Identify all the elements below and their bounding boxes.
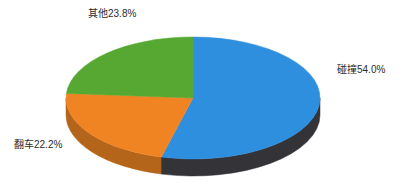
pie-slice-other[interactable] (66, 37, 193, 98)
pie-label-rollover: 翻车22.2% (14, 139, 62, 151)
pie-label-other: 其他23.8% (88, 8, 136, 20)
pie-chart-svg (0, 0, 403, 191)
pie-top-face (66, 37, 320, 159)
pie-label-collision: 碰撞54.0% (337, 64, 385, 76)
pie-chart-figure: 其他23.8% 碰撞54.0% 翻车22.2% (0, 0, 403, 191)
